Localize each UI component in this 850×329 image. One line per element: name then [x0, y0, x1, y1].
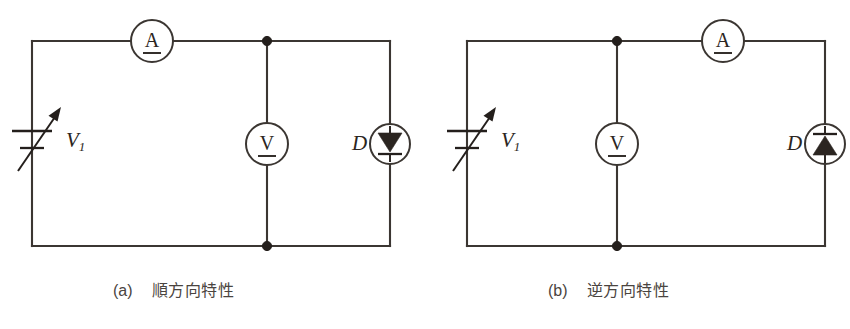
diode-label-b: D — [787, 133, 802, 154]
source-label-a: V1 — [66, 130, 85, 153]
variable-dc-source-a — [12, 107, 61, 171]
variable-dc-source-b — [447, 107, 496, 171]
source-a-variable-arrow-head — [49, 107, 62, 122]
ammeter-a-glyph: A — [145, 29, 160, 51]
voltmeter-b-glyph: V — [610, 132, 625, 154]
caption-b-text: 逆方向特性 — [587, 282, 670, 299]
ammeter-b: A — [702, 20, 744, 62]
caption-a: (a)順方向特性 — [113, 283, 234, 299]
source-label-a-symbol: V — [66, 128, 79, 152]
source-label-b-symbol: V — [501, 128, 514, 152]
voltmeter-a: V — [246, 123, 288, 165]
diode-label-a: D — [352, 133, 367, 154]
ammeter-a: A — [131, 20, 173, 62]
caption-b-tag: (b) — [548, 282, 568, 299]
source-label-b-subscript: 1 — [514, 139, 521, 154]
figure-root: A V — [0, 0, 850, 329]
diode-a — [370, 124, 410, 164]
circuit-canvas: A V — [0, 0, 850, 329]
caption-a-tag: (a) — [113, 282, 133, 299]
node-dot-b-top — [612, 36, 621, 45]
ammeter-b-glyph: A — [716, 29, 731, 51]
diode-b — [805, 124, 845, 164]
source-label-b: V1 — [501, 130, 520, 153]
source-b-variable-arrow-head — [484, 107, 497, 122]
source-label-a-subscript: 1 — [79, 139, 86, 154]
source-b-variable-arrow-shaft — [453, 114, 492, 171]
voltmeter-b: V — [596, 123, 638, 165]
caption-a-text: 順方向特性 — [152, 282, 235, 299]
source-a-variable-arrow-shaft — [18, 114, 57, 171]
caption-b: (b)逆方向特性 — [548, 283, 669, 299]
voltmeter-a-glyph: V — [260, 132, 275, 154]
node-dot-a-bottom — [262, 241, 271, 250]
node-dot-a-top — [262, 36, 271, 45]
node-dot-b-bottom — [612, 241, 621, 250]
